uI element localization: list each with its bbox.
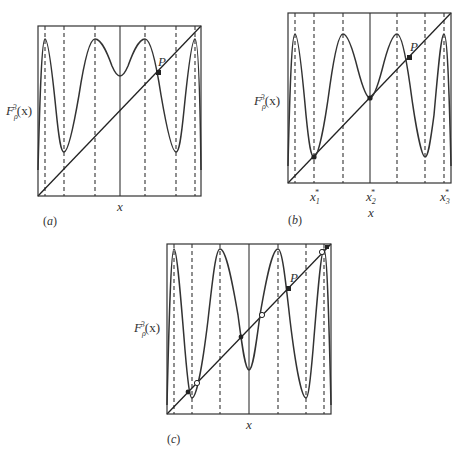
panel-b: P Fρ3(x) x1* x2* x3* x (b) <box>253 13 451 227</box>
fixed-point-x2 <box>367 95 372 100</box>
fixed-point <box>239 335 244 340</box>
x-tick-label-x3: x3* <box>439 188 450 206</box>
fixed-point-P <box>156 70 161 75</box>
panel-a: P Fρ3(x) x (a) <box>5 26 201 228</box>
fixed-point-P <box>407 55 412 60</box>
unstable-point <box>194 380 199 385</box>
point-label-P: P <box>289 270 298 285</box>
point-label-P: P <box>409 39 418 54</box>
x-axis-label: x <box>367 205 374 220</box>
svg-text:Fρ3(x): Fρ3(x) <box>253 93 280 111</box>
panel-caption-c: (c) <box>167 432 180 446</box>
x-axis-label: x <box>116 199 123 214</box>
figure-canvas: P Fρ3(x) x (a) P Fρ3(x) x1* x2* x3* x (b… <box>0 0 461 449</box>
y-axis-label: Fρ3(x) <box>253 93 280 111</box>
fixed-point <box>325 245 329 249</box>
unstable-point <box>259 312 264 317</box>
point-label-P: P <box>157 54 166 69</box>
svg-text:Fρ3(x): Fρ3(x) <box>5 103 32 121</box>
fixed-point <box>186 390 191 395</box>
panel-caption-b: (b) <box>288 213 302 227</box>
panel-c: P Fρ3(x) x (c) <box>133 244 331 446</box>
x-tick-label-x2: x2* <box>365 188 376 206</box>
y-axis-label: Fρ3(x) <box>5 103 32 121</box>
svg-text:Fρ3(x): Fρ3(x) <box>133 320 160 338</box>
panel-caption-a: (a) <box>43 214 57 228</box>
y-axis-label: Fρ3(x) <box>133 320 160 338</box>
unstable-point <box>319 249 324 254</box>
fixed-point-x1 <box>311 154 316 159</box>
x-tick-label-x1: x1* <box>309 188 320 206</box>
x-axis-label: x <box>245 417 252 432</box>
fixed-point-P <box>286 286 291 291</box>
